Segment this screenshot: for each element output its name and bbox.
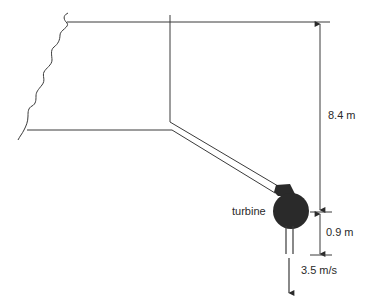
hydro-turbine-diagram: turbine 8.4 m 0.9 m 3.5 m/s xyxy=(0,0,365,300)
penstock-pipe xyxy=(170,122,278,193)
reservoir xyxy=(18,13,330,140)
turbine xyxy=(273,184,309,254)
turbine-label: turbine xyxy=(232,205,266,217)
exit-velocity-label: 3.5 m/s xyxy=(301,264,338,276)
dimension-lower-label: 0.9 m xyxy=(326,226,354,238)
dimension-upper-label: 8.4 m xyxy=(328,109,356,121)
reservoir-wavy-boundary xyxy=(18,13,68,140)
turbine-body xyxy=(273,193,309,229)
